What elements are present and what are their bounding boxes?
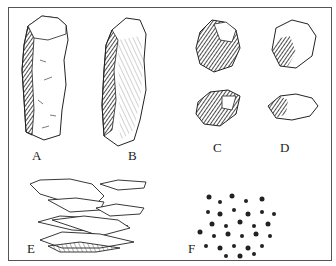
label-b: B [128,149,137,162]
specimen-f [198,194,277,259]
specimen-illustration [0,0,336,266]
specimen-e [30,179,146,252]
specimen-b [102,18,146,146]
label-c: C [213,141,222,154]
specimen-d [268,20,318,120]
label-e: E [27,242,35,255]
label-d: D [280,141,289,154]
specimen-a [22,16,68,140]
label-f: F [188,242,195,255]
label-a: A [32,149,41,162]
specimen-c [196,20,240,126]
